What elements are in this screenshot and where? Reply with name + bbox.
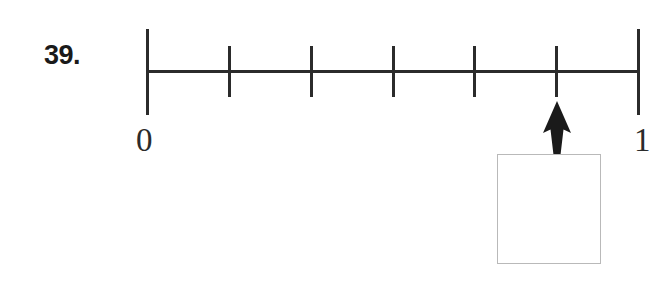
answer-input[interactable] <box>498 155 600 263</box>
tick-mark-0 <box>146 29 149 115</box>
number-line-end-label: 1 <box>634 124 651 157</box>
tick-mark-4 <box>473 46 476 97</box>
answer-box[interactable] <box>497 154 601 264</box>
tick-mark-2 <box>310 46 313 97</box>
number-line-start-label: 0 <box>136 124 153 157</box>
tick-mark-1 <box>228 46 231 97</box>
arrow-up-icon <box>536 100 578 158</box>
tick-mark-5 <box>555 46 558 97</box>
tick-mark-6 <box>637 29 640 115</box>
worksheet-problem: 39. 0 1 <box>0 0 662 282</box>
tick-mark-3 <box>392 46 395 97</box>
